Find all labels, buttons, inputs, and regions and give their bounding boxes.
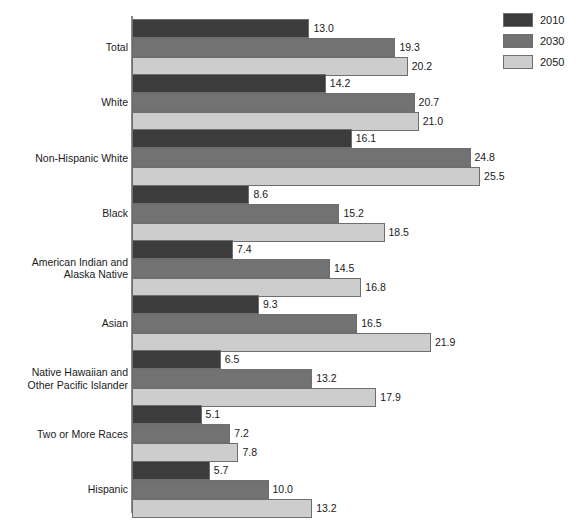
bar-value-label: 13.2 (316, 501, 336, 516)
category-label-line: Alaska Native (2, 268, 128, 281)
category-label: Total (2, 41, 128, 54)
legend-label: 2050 (540, 56, 564, 68)
bar-group: Two or More Races5.17.27.8 (0, 405, 576, 462)
bar-2050[interactable] (132, 443, 238, 462)
bar-group: Total13.019.320.2 (0, 19, 576, 76)
category-label-line: Non-Hispanic White (2, 152, 128, 165)
bar-2050[interactable] (132, 167, 480, 186)
bar-2010[interactable] (132, 240, 233, 259)
category-label: Two or More Races (2, 428, 128, 441)
bar-value-label: 5.7 (214, 463, 229, 478)
bar-2010[interactable] (132, 350, 221, 369)
bar-2050[interactable] (132, 278, 361, 297)
bar-2050[interactable] (132, 499, 312, 518)
bar-2030[interactable] (132, 314, 357, 333)
bar-value-label: 13.2 (316, 371, 336, 386)
category-label: White (2, 96, 128, 109)
bar-2030[interactable] (132, 93, 415, 112)
bar-2010[interactable] (132, 405, 202, 424)
bar-value-label: 16.8 (365, 280, 385, 295)
bar-2010[interactable] (132, 295, 259, 314)
category-label: Asian (2, 317, 128, 330)
bar-value-label: 20.2 (412, 59, 432, 74)
bar-value-label: 21.9 (435, 335, 455, 350)
bar-value-label: 20.7 (419, 95, 439, 110)
category-label: Non-Hispanic White (2, 152, 128, 165)
bar-2050[interactable] (132, 388, 376, 407)
category-label-line: Native Hawaiian and (2, 366, 128, 379)
category-label-line: American Indian and (2, 256, 128, 269)
bar-group: Non-Hispanic White16.124.825.5 (0, 129, 576, 186)
bar-value-label: 17.9 (380, 390, 400, 405)
bar-2030[interactable] (132, 480, 269, 499)
legend-label: 2030 (540, 35, 564, 47)
bar-value-label: 7.8 (242, 445, 257, 460)
bar-value-label: 7.2 (234, 426, 249, 441)
bar-value-label: 24.8 (475, 150, 495, 165)
category-label: Hispanic (2, 483, 128, 496)
bar-value-label: 6.5 (225, 352, 240, 367)
bar-2010[interactable] (132, 185, 249, 204)
legend-item-2050[interactable]: 2050 (503, 51, 576, 72)
bar-value-label: 19.3 (399, 40, 419, 55)
bar-value-label: 10.0 (273, 482, 293, 497)
category-label-line: Total (2, 41, 128, 54)
category-label-line: Two or More Races (2, 428, 128, 441)
category-label-line: Other Pacific Islander (2, 379, 128, 392)
bar-value-label: 14.2 (330, 76, 350, 91)
chart-legend: 201020302050 (503, 9, 576, 72)
bar-2010[interactable] (132, 74, 326, 93)
bar-2030[interactable] (132, 148, 471, 167)
bar-value-label: 14.5 (334, 261, 354, 276)
legend-item-2010[interactable]: 2010 (503, 9, 576, 30)
bar-value-label: 8.6 (253, 187, 268, 202)
bar-chart: Total13.019.320.2White14.220.721.0Non-Hi… (0, 0, 576, 529)
bar-value-label: 13.0 (313, 21, 333, 36)
legend-item-2030[interactable]: 2030 (503, 30, 576, 51)
plot-area: Total13.019.320.2White14.220.721.0Non-Hi… (0, 0, 576, 529)
bar-group: Black8.615.218.5 (0, 185, 576, 242)
bar-value-label: 16.5 (361, 316, 381, 331)
bar-2030[interactable] (132, 424, 230, 443)
bar-2030[interactable] (132, 259, 330, 278)
category-label-line: Black (2, 207, 128, 220)
bar-value-label: 15.2 (343, 206, 363, 221)
bar-value-label: 5.1 (206, 407, 221, 422)
bar-2050[interactable] (132, 112, 419, 131)
bar-value-label: 16.1 (356, 131, 376, 146)
category-label: American Indian andAlaska Native (2, 256, 128, 281)
bar-value-label: 21.0 (423, 114, 443, 129)
category-label: Black (2, 207, 128, 220)
bar-2030[interactable] (132, 38, 395, 57)
category-label: Native Hawaiian andOther Pacific Islande… (2, 366, 128, 391)
bar-2050[interactable] (132, 223, 385, 242)
legend-swatch-icon (503, 34, 533, 48)
bar-2050[interactable] (132, 333, 431, 352)
legend-swatch-icon (503, 13, 533, 27)
bar-group: White14.220.721.0 (0, 74, 576, 131)
legend-label: 2010 (540, 14, 564, 26)
bar-2010[interactable] (132, 19, 309, 38)
bar-group: Asian9.316.521.9 (0, 295, 576, 352)
bar-2010[interactable] (132, 461, 210, 480)
bar-value-label: 9.3 (263, 297, 278, 312)
bar-value-label: 25.5 (484, 169, 504, 184)
bar-group: Native Hawaiian andOther Pacific Islande… (0, 350, 576, 407)
legend-swatch-icon (503, 55, 533, 69)
bar-2010[interactable] (132, 129, 352, 148)
category-label-line: Hispanic (2, 483, 128, 496)
bar-2050[interactable] (132, 57, 408, 76)
bar-value-label: 18.5 (389, 225, 409, 240)
bar-group: Hispanic5.710.013.2 (0, 461, 576, 518)
bar-group: American Indian andAlaska Native7.414.51… (0, 240, 576, 297)
bar-value-label: 7.4 (237, 242, 252, 257)
bar-2030[interactable] (132, 204, 339, 223)
category-label-line: Asian (2, 317, 128, 330)
bar-2030[interactable] (132, 369, 312, 388)
category-label-line: White (2, 96, 128, 109)
